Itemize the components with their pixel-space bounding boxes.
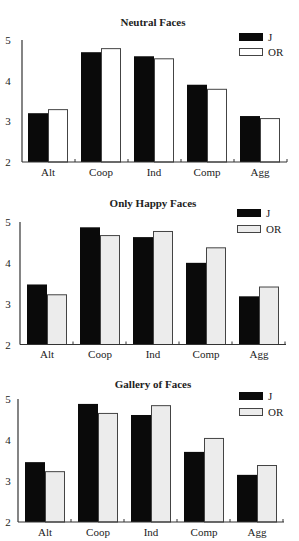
bar-j <box>239 296 259 344</box>
x-category-label: Ind <box>144 526 159 538</box>
x-category-label: Coop <box>86 526 110 538</box>
legend-swatch-or <box>238 226 261 233</box>
x-category-label: Coop <box>89 166 113 178</box>
legend-label-or: OR <box>268 406 284 418</box>
bar-or <box>208 89 227 162</box>
y-axis-ticks: 2345 <box>5 34 11 168</box>
bar-or <box>48 295 67 345</box>
legend: J OR <box>239 31 284 58</box>
chart-only-happy-faces: Only Happy Faces 2345 AltCoopIndCompAgg … <box>0 180 299 360</box>
legend-swatch-or <box>240 49 263 56</box>
bar-j <box>131 415 151 522</box>
chart-title: Gallery of Faces <box>115 378 192 390</box>
bar-j <box>81 52 101 162</box>
y-tick-label: 4 <box>5 75 11 87</box>
legend-label-j: J <box>268 390 273 402</box>
y-axis-ticks: 2345 <box>5 393 11 528</box>
x-category-label: Alt <box>41 166 55 178</box>
x-axis-labels: AltCoopIndCompAgg <box>41 166 270 178</box>
legend-swatch-j <box>239 33 263 41</box>
x-category-label: Coop <box>88 348 112 360</box>
chart-svg: Neutral Faces 2345 AltCoopIndCompAgg J O… <box>0 0 299 180</box>
y-tick-label: 3 <box>5 298 11 310</box>
legend-swatch-j <box>237 209 261 217</box>
x-category-label: Agg <box>248 526 267 538</box>
bars <box>28 49 280 162</box>
bar-j <box>133 237 153 344</box>
x-category-label: Comp <box>191 526 218 538</box>
x-category-label: Agg <box>251 166 270 178</box>
bar-j <box>134 56 154 162</box>
bar-or <box>261 119 280 162</box>
legend-swatch-or <box>240 409 263 416</box>
y-tick-label: 3 <box>5 115 11 127</box>
legend-label-j: J <box>266 207 271 219</box>
bar-or <box>260 287 279 344</box>
chart-title: Only Happy Faces <box>110 197 198 209</box>
bar-or <box>207 248 226 345</box>
bar-j <box>28 113 48 162</box>
y-tick-label: 2 <box>5 516 11 528</box>
bar-or <box>154 231 173 344</box>
bar-or <box>155 59 174 162</box>
chart-svg: Gallery of Faces 2345 AltCoopIndCompAgg … <box>0 360 299 541</box>
bar-or <box>258 466 277 522</box>
bar-or <box>101 236 120 345</box>
bar-or <box>152 406 171 522</box>
legend-label-or: OR <box>268 46 284 58</box>
bars <box>25 404 277 522</box>
y-axis-ticks: 2345 <box>5 216 11 351</box>
bar-or <box>46 472 65 522</box>
x-category-label: Ind <box>146 348 161 360</box>
y-tick-label: 3 <box>5 475 11 487</box>
bar-or <box>205 438 224 522</box>
bar-j <box>187 85 207 162</box>
bar-j <box>240 116 260 162</box>
y-tick-label: 4 <box>5 434 11 446</box>
legend: J OR <box>237 207 282 235</box>
bar-or <box>99 413 118 522</box>
x-category-label: Comp <box>193 348 220 360</box>
bar-j <box>78 404 98 522</box>
x-category-label: Ind <box>147 166 162 178</box>
legend: J OR <box>239 390 284 418</box>
bar-j <box>27 284 47 344</box>
chart-svg: Only Happy Faces 2345 AltCoopIndCompAgg … <box>0 180 299 360</box>
y-tick-label: 2 <box>5 156 11 168</box>
x-category-label: Alt <box>40 348 54 360</box>
bar-or <box>102 49 121 162</box>
chart-neutral-faces: Neutral Faces 2345 AltCoopIndCompAgg J O… <box>0 0 299 180</box>
bar-j <box>184 452 204 522</box>
chart-gallery-of-faces: Gallery of Faces 2345 AltCoopIndCompAgg … <box>0 360 299 540</box>
x-category-label: Alt <box>38 526 52 538</box>
x-axis-labels: AltCoopIndCompAgg <box>38 526 267 538</box>
legend-label-or: OR <box>266 223 282 235</box>
bar-j <box>237 475 257 522</box>
bar-j <box>25 462 45 522</box>
bar-or <box>49 110 68 162</box>
x-category-label: Agg <box>250 348 269 360</box>
x-axis-labels: AltCoopIndCompAgg <box>40 348 269 360</box>
legend-label-j: J <box>268 31 273 43</box>
y-tick-label: 5 <box>5 216 11 228</box>
y-tick-label: 4 <box>5 257 11 269</box>
x-category-label: Comp <box>194 166 221 178</box>
legend-swatch-j <box>239 392 263 400</box>
y-tick-label: 5 <box>5 393 11 405</box>
y-tick-label: 2 <box>5 339 11 351</box>
y-tick-label: 5 <box>5 34 11 46</box>
bar-j <box>80 227 100 344</box>
chart-title: Neutral Faces <box>120 16 186 28</box>
bar-j <box>186 263 206 345</box>
bars <box>27 227 279 344</box>
